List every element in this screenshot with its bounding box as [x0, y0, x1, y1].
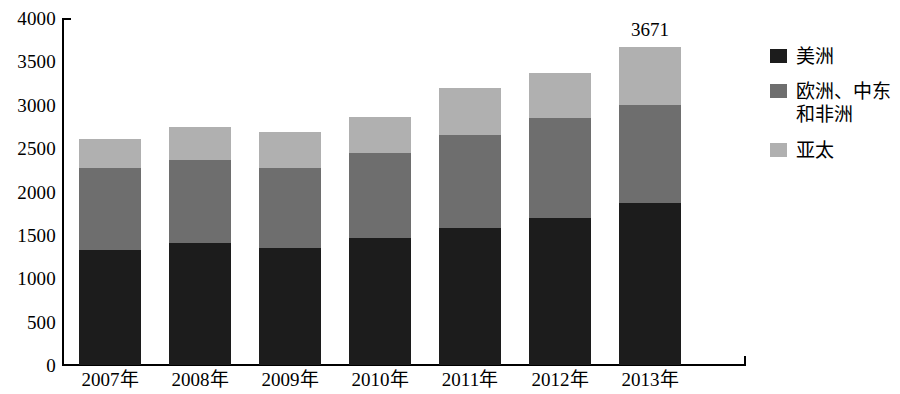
bar-segment-series-2[interactable]: [169, 127, 231, 160]
bar-segment-series-0[interactable]: [529, 218, 591, 365]
bar-segment-series-1[interactable]: [79, 168, 141, 250]
bar-value-label: 3671: [631, 20, 669, 39]
bar-segment-series-0[interactable]: [619, 203, 681, 365]
x-tick-label: 2007年: [65, 370, 155, 389]
x-tick-label: 2011年: [425, 370, 515, 389]
bar-group[interactable]: [169, 127, 231, 365]
bar-stack: [439, 88, 501, 365]
bar-segment-series-0[interactable]: [439, 228, 501, 365]
legend-item[interactable]: 美洲: [770, 45, 834, 68]
x-tick-label: 2009年: [245, 370, 335, 389]
bar-segment-series-2[interactable]: [619, 47, 681, 106]
bar-stack: [169, 127, 231, 365]
legend-swatch: [770, 143, 787, 157]
bar-segment-series-0[interactable]: [79, 250, 141, 365]
legend-swatch: [770, 84, 787, 98]
plot-area: 2007年2008年2009年2010年2011年2012年36712013年: [0, 0, 900, 394]
legend-item[interactable]: 欧洲、中东 和非洲: [770, 80, 891, 126]
legend-label: 亚太: [796, 139, 834, 162]
stacked-bar-chart: 05001000150020002500300035004000 2007年20…: [0, 0, 900, 394]
bar-group[interactable]: [529, 73, 591, 365]
bar-segment-series-2[interactable]: [79, 139, 141, 168]
bar-stack: [349, 117, 411, 365]
bar-stack: [529, 73, 591, 365]
bar-segment-series-1[interactable]: [439, 135, 501, 228]
bar-segment-series-0[interactable]: [169, 243, 231, 365]
bar-stack: [259, 132, 321, 365]
x-tick-label: 2013年: [605, 370, 695, 389]
bar-stack: [619, 47, 681, 365]
x-tick-label: 2010年: [335, 370, 425, 389]
bar-group[interactable]: [259, 132, 321, 365]
x-tick-label: 2012年: [515, 370, 605, 389]
bar-segment-series-2[interactable]: [259, 132, 321, 168]
bar-group[interactable]: [79, 139, 141, 365]
bar-segment-series-2[interactable]: [439, 88, 501, 135]
legend-swatch: [770, 49, 787, 63]
x-tick-label: 2008年: [155, 370, 245, 389]
bar-segment-series-1[interactable]: [529, 118, 591, 218]
bar-segment-series-1[interactable]: [169, 160, 231, 243]
legend-label: 欧洲、中东 和非洲: [796, 80, 891, 126]
legend-label: 美洲: [796, 45, 834, 68]
bar-segment-series-2[interactable]: [349, 117, 411, 153]
bar-group[interactable]: [349, 117, 411, 365]
bar-segment-series-1[interactable]: [259, 168, 321, 248]
bar-group[interactable]: [439, 88, 501, 365]
bar-stack: [79, 139, 141, 365]
bar-group[interactable]: 3671: [619, 47, 681, 365]
bar-segment-series-0[interactable]: [349, 238, 411, 365]
bar-segment-series-1[interactable]: [619, 105, 681, 203]
bar-segment-series-0[interactable]: [259, 248, 321, 365]
bar-segment-series-2[interactable]: [529, 73, 591, 118]
legend-item[interactable]: 亚太: [770, 139, 834, 162]
bar-segment-series-1[interactable]: [349, 153, 411, 238]
